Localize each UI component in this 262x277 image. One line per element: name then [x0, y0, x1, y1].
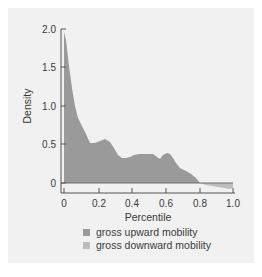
downward-swatch-icon [83, 242, 90, 249]
y-axis-title: Density [21, 88, 33, 124]
x-tick-label: 0.6 [159, 198, 173, 209]
y-tick-label: 1.0 [42, 101, 56, 112]
x-tick-label: 0 [61, 198, 67, 209]
x-tick-label: 0.2 [92, 198, 106, 209]
y-tick-label: 2.0 [42, 24, 56, 35]
legend-item-downward: gross downward mobility [83, 239, 211, 252]
upward-swatch-icon [83, 229, 90, 236]
x-tick-label: 0.4 [125, 198, 139, 209]
legend-item-upward: gross upward mobility [83, 226, 211, 239]
x-tick-label: 1.0 [226, 198, 240, 209]
downward-mobility-area [200, 183, 233, 189]
legend: gross upward mobility gross downward mob… [83, 226, 211, 252]
y-tick-label: 1.5 [42, 62, 56, 73]
x-tick-label: 0.8 [193, 198, 207, 209]
x-axis-ticks [64, 188, 233, 193]
y-tick-label: 0.5 [42, 139, 56, 150]
legend-label: gross upward mobility [96, 226, 198, 239]
legend-label: gross downward mobility [96, 239, 211, 252]
x-axis-title: Percentile [125, 211, 172, 223]
upward-mobility-area [64, 32, 200, 183]
y-tick-label: 0 [50, 178, 56, 189]
